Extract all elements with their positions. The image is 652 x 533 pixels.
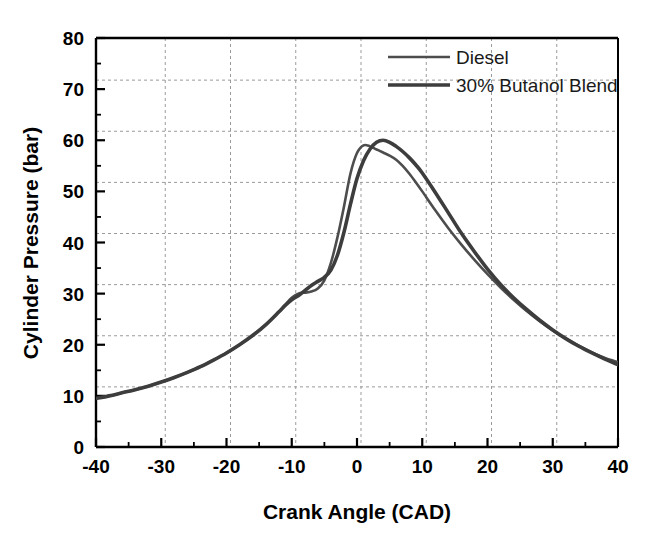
y-axis-tick-label: 0 [73,437,84,458]
y-axis-tick-label: 80 [63,28,84,49]
x-axis-tick-label: 0 [352,456,363,477]
legend-label-butanol-blend: 30% Butanol Blend [456,75,618,96]
y-axis-tick-label: 60 [63,130,84,151]
chart-figure: 01020304050607080-40-30-20-10010203040 C… [0,0,652,533]
x-axis-tick-label: -40 [82,456,109,477]
x-axis-title: Crank Angle (CAD) [263,500,451,523]
x-axis-tick-label: -30 [148,456,175,477]
y-axis-tick-label: 30 [63,284,84,305]
x-axis-tick-label: -10 [278,456,305,477]
y-axis-tick-label: 10 [63,386,84,407]
x-axis-tick-label: -20 [213,456,240,477]
x-axis-tick-label: 30 [542,456,563,477]
y-axis-tick-label: 50 [63,181,84,202]
x-axis-tick-label: 40 [607,456,628,477]
y-axis-title: Cylinder Pressure (bar) [19,127,42,359]
x-axis-tick-label: 10 [412,456,433,477]
x-axis-tick-label: 20 [477,456,498,477]
y-axis-tick-label: 40 [63,233,84,254]
y-axis-tick-label: 20 [63,335,84,356]
cylinder-pressure-line-chart: 01020304050607080-40-30-20-10010203040 C… [0,0,652,533]
y-axis-tick-label: 70 [63,79,84,100]
legend-label-diesel: Diesel [456,47,509,68]
